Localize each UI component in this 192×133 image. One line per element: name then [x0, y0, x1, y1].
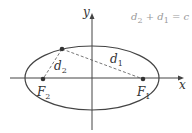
equation: d2 + d1 = c [131, 11, 189, 25]
f2-label: F2 [37, 86, 50, 101]
eq-plus: + [143, 11, 158, 22]
x-axis-label: x [179, 79, 186, 91]
y-axis-arrow-icon [90, 13, 95, 19]
d1-line [62, 49, 143, 79]
f1-sub: 1 [145, 92, 150, 101]
focus-f1 [141, 77, 146, 82]
y-axis-label: y [83, 6, 90, 18]
d1-name: d [110, 52, 118, 66]
d1-label: d1 [110, 53, 123, 68]
f1-label: F1 [137, 86, 150, 101]
f2-sub: 2 [45, 92, 50, 101]
d2-label: d2 [54, 60, 67, 75]
point-on-ellipse [60, 47, 65, 52]
d1-sub: 1 [118, 59, 123, 68]
focus-f2 [41, 77, 46, 82]
d2-sub: 2 [62, 66, 67, 75]
d2-name: d [54, 59, 62, 73]
eq-rest: = c [169, 11, 189, 22]
